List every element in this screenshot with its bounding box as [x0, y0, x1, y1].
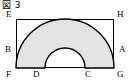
vertex-label-G: G	[117, 70, 124, 79]
figure-container: 図 3 E H B A F D C G	[0, 0, 130, 83]
vertex-label-F: F	[6, 70, 11, 79]
vertex-label-A: A	[119, 45, 126, 54]
geometry-diagram	[0, 0, 130, 83]
vertex-label-B: B	[5, 45, 11, 54]
vertex-label-D: D	[33, 70, 40, 79]
vertex-label-C: C	[85, 70, 91, 79]
vertex-label-E: E	[6, 10, 12, 19]
shaded-annular-sector	[16, 19, 114, 68]
vertex-label-H: H	[117, 10, 124, 19]
